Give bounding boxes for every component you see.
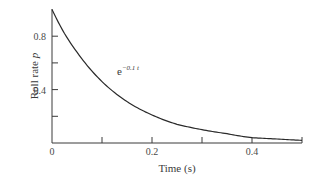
y-tick-label: 0.8 (22, 31, 46, 42)
x-axis-title: Time (s) (158, 162, 195, 174)
y-ticks (52, 36, 58, 116)
y-axis-title: Roll rate p (28, 53, 40, 99)
annotation-exponent: −0.1 t (122, 64, 139, 72)
x-ticks (102, 137, 302, 143)
curve-annotation: e−0.1 t (117, 64, 139, 77)
y-axis-symbol: p (28, 53, 40, 59)
y-axis-title-text: Roll rate (28, 58, 40, 99)
x-tick-label: 0.4 (246, 146, 259, 157)
decay-curve (52, 10, 302, 141)
x-tick-label: 0.2 (146, 146, 159, 157)
x-tick-label: 0 (50, 146, 55, 157)
